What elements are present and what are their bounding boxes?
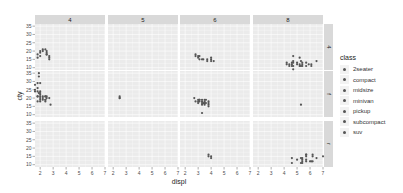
- data-point: [305, 62, 307, 64]
- data-point: [46, 95, 48, 97]
- data-point: [38, 75, 40, 77]
- panel-drv-4-cyl-8: [253, 24, 323, 70]
- panel-drv-4-cyl-4: [35, 24, 105, 70]
- legend-point-icon: [340, 128, 349, 137]
- svg-text:5: 5: [151, 170, 154, 176]
- data-point: [42, 50, 44, 52]
- data-point: [286, 62, 288, 64]
- facet-strip-row-r: r: [324, 121, 333, 167]
- data-point: [42, 97, 44, 99]
- data-point: [48, 58, 50, 60]
- x-axis-title: displ: [172, 178, 187, 186]
- data-point: [36, 87, 38, 89]
- data-point: [36, 100, 38, 102]
- svg-text:10: 10: [26, 111, 32, 117]
- facet-strip-row-f: f: [324, 71, 333, 117]
- svg-text:7: 7: [249, 170, 252, 176]
- legend-item-subcompact: subcompact: [340, 117, 385, 128]
- data-point: [201, 58, 203, 60]
- data-point: [292, 60, 294, 62]
- facet-strip-col-4: 4: [35, 15, 105, 24]
- data-point: [39, 82, 41, 84]
- data-point: [296, 63, 298, 65]
- data-point: [46, 52, 48, 54]
- svg-text:6: 6: [91, 170, 94, 176]
- data-point: [49, 104, 51, 106]
- x-axis-col-5: 234567: [112, 167, 180, 176]
- svg-text:25: 25: [26, 137, 32, 143]
- legend-title: class: [340, 54, 385, 61]
- data-point: [197, 102, 199, 104]
- facet-strip-row-4: 4: [324, 24, 333, 70]
- data-point: [34, 84, 36, 86]
- svg-text:6: 6: [236, 170, 239, 176]
- svg-text:20: 20: [26, 145, 32, 151]
- data-point: [204, 104, 206, 106]
- svg-text:10: 10: [26, 161, 32, 167]
- y-axis-row-f: 101520253035: [26, 70, 35, 118]
- svg-text:20: 20: [26, 48, 32, 54]
- data-point: [194, 100, 196, 102]
- svg-text:3: 3: [52, 170, 55, 176]
- svg-text:15: 15: [26, 153, 32, 159]
- panel-drv-r-cyl-6: [180, 121, 250, 167]
- data-point: [292, 68, 294, 70]
- data-point: [201, 104, 203, 106]
- svg-text:3: 3: [125, 170, 128, 176]
- svg-text:7: 7: [104, 170, 107, 176]
- data-point: [207, 102, 209, 104]
- data-point: [315, 60, 317, 62]
- data-point: [119, 97, 121, 99]
- data-point: [292, 55, 294, 57]
- y-axis-row-4: 101520253035: [26, 23, 35, 71]
- panel-drv-f-cyl-6: [180, 71, 250, 117]
- legend-item-midsize: midsize: [340, 85, 385, 96]
- panel-drv-r-cyl-4: [35, 121, 105, 167]
- data-point: [288, 63, 290, 65]
- facet-strip-col-8: 8: [253, 15, 323, 24]
- svg-text:4: 4: [65, 170, 68, 176]
- data-point: [322, 155, 324, 157]
- legend-point-icon: [340, 96, 349, 105]
- data-point: [305, 160, 307, 162]
- y-axis-title: cty: [16, 91, 24, 100]
- legend-point-icon: [340, 86, 349, 95]
- svg-text:3: 3: [197, 170, 200, 176]
- data-point: [36, 82, 38, 84]
- svg-text:5: 5: [296, 170, 299, 176]
- facet-strip-col-5: 5: [108, 15, 178, 24]
- panel-drv-r-cyl-8: [253, 121, 324, 167]
- panel-drv-4-cyl-5: [108, 24, 178, 70]
- data-point: [207, 105, 209, 107]
- x-axis-col-8: 234567: [257, 167, 325, 176]
- svg-text:30: 30: [26, 78, 32, 84]
- data-point: [205, 99, 207, 101]
- svg-text:15: 15: [26, 103, 32, 109]
- svg-text:3: 3: [270, 170, 273, 176]
- data-point: [291, 162, 293, 164]
- data-point: [305, 65, 307, 67]
- legend-point-icon: [340, 107, 349, 116]
- data-point: [312, 155, 314, 157]
- panel-drv-f-cyl-5: [108, 71, 178, 117]
- data-point: [39, 100, 41, 102]
- panel-drv-f-cyl-8: [253, 71, 323, 117]
- data-point: [201, 99, 203, 101]
- legend-item-suv: suv: [340, 127, 385, 138]
- svg-text:r: r: [326, 143, 332, 145]
- svg-text:5: 5: [78, 170, 81, 176]
- svg-text:35: 35: [26, 120, 32, 126]
- data-point: [310, 63, 312, 65]
- data-point: [301, 162, 303, 164]
- legend-item-compact: compact: [340, 75, 385, 86]
- legend-item-pickup: pickup: [340, 106, 385, 117]
- x-axis-col-4: 234567: [39, 167, 107, 176]
- svg-text:2: 2: [112, 170, 115, 176]
- svg-text:2: 2: [184, 170, 187, 176]
- svg-text:35: 35: [26, 70, 32, 76]
- data-point: [310, 160, 312, 162]
- data-point: [36, 57, 38, 59]
- legend-point-icon: [340, 75, 349, 84]
- data-point: [305, 154, 307, 156]
- svg-text:30: 30: [26, 31, 32, 37]
